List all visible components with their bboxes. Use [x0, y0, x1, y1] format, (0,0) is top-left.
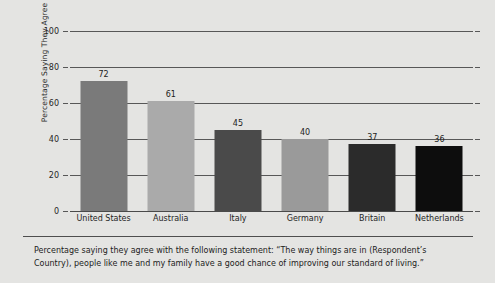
bar-slot: 40	[272, 31, 339, 211]
bar[interactable]	[349, 144, 396, 211]
y-tick-label-80: 80	[49, 63, 59, 72]
bar-value-label: 36	[434, 135, 444, 144]
y-tick-left-100	[63, 31, 68, 32]
chart-caption: Percentage saying they agree with the fo…	[34, 245, 464, 270]
bar-slot: 61	[137, 31, 204, 211]
y-tick-right-100	[475, 31, 480, 32]
y-tick-label-0: 0	[54, 207, 59, 216]
bars-group: 726145403736	[70, 31, 473, 211]
y-tick-label-60: 60	[49, 99, 59, 108]
chart-plot-panel: Percentage Saying They Agree 02040608010…	[22, 8, 473, 233]
bar-slot: 37	[339, 31, 406, 211]
bar[interactable]	[416, 146, 463, 211]
y-tick-left-20	[63, 175, 68, 176]
x-axis-label-united-states: United States	[76, 214, 130, 223]
y-axis-title: Percentage Saying They Agree	[40, 0, 49, 128]
y-tick-left-60	[63, 103, 68, 104]
x-axis-label-italy: Italy	[229, 214, 246, 223]
bar-value-label: 40	[300, 128, 310, 137]
y-tick-label-40: 40	[49, 135, 59, 144]
y-tick-right-80	[475, 67, 480, 68]
bar[interactable]	[80, 81, 127, 211]
bar[interactable]	[282, 139, 329, 211]
y-tick-left-40	[63, 139, 68, 140]
bar-slot: 36	[406, 31, 473, 211]
bar[interactable]	[214, 130, 261, 211]
x-axis-label-netherlands: Netherlands	[415, 214, 464, 223]
y-tick-right-20	[475, 175, 480, 176]
bar-value-label: 72	[98, 70, 108, 79]
bar-slot: 45	[204, 31, 271, 211]
y-tick-label-20: 20	[49, 171, 59, 180]
y-tick-right-40	[475, 139, 480, 140]
x-axis-labels: United StatesAustraliaItalyGermanyBritai…	[70, 214, 473, 230]
bar-value-label: 37	[367, 133, 377, 142]
bar-value-label: 61	[166, 90, 176, 99]
bar[interactable]	[147, 101, 194, 211]
caption-divider	[23, 236, 473, 237]
y-tick-right-0	[475, 211, 480, 212]
x-axis-label-australia: Australia	[153, 214, 188, 223]
gridline-0	[70, 211, 473, 212]
figure-container: Percentage Saying They Agree 02040608010…	[0, 0, 495, 283]
bar-slot: 72	[70, 31, 137, 211]
y-tick-left-0	[63, 211, 68, 212]
y-tick-left-80	[63, 67, 68, 68]
bar-value-label: 45	[233, 119, 243, 128]
y-tick-label-100: 100	[44, 27, 59, 36]
x-axis-label-germany: Germany	[287, 214, 324, 223]
y-tick-right-60	[475, 103, 480, 104]
x-axis-label-britain: Britain	[359, 214, 385, 223]
